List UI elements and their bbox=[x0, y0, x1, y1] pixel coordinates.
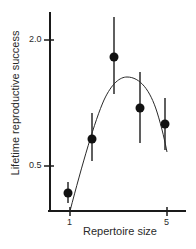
fitted-curve bbox=[70, 77, 167, 211]
x-tick-label: 5 bbox=[164, 217, 169, 227]
x-tick-label: 1 bbox=[67, 217, 72, 227]
error-bars bbox=[68, 17, 165, 203]
y-axis-label: Lifetime reproductive success bbox=[9, 31, 21, 176]
data-point bbox=[88, 135, 97, 144]
data-point bbox=[110, 53, 119, 62]
x-axis-label: Repertoire size bbox=[83, 225, 157, 237]
data-point bbox=[136, 104, 145, 113]
data-point bbox=[64, 189, 73, 198]
y-tick-label: 0.5 bbox=[29, 160, 42, 170]
y-tick-label: 2.0 bbox=[29, 34, 42, 44]
data-point bbox=[161, 120, 170, 129]
